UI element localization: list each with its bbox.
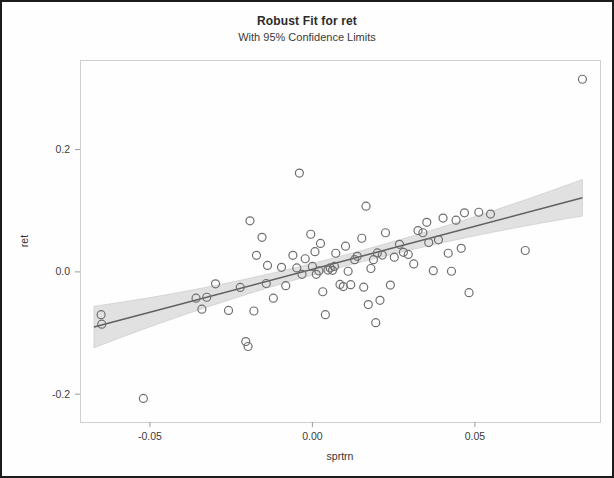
x-tick-label: 0.00	[302, 430, 323, 442]
chart-figure: Robust Fit for ret With 95% Confidence L…	[2, 2, 612, 476]
confidence-band	[94, 179, 582, 347]
y-tick-label: 0.2	[55, 143, 70, 155]
data-point	[423, 218, 431, 226]
data-point	[319, 288, 327, 296]
data-point	[250, 307, 258, 315]
plot-frame	[81, 61, 601, 423]
data-point	[342, 242, 350, 250]
data-point	[390, 253, 398, 261]
data-point	[360, 283, 368, 291]
data-point	[364, 301, 372, 309]
y-axis-label: ret	[18, 235, 30, 247]
data-point	[307, 230, 315, 238]
data-point	[386, 281, 394, 289]
data-point	[382, 229, 390, 237]
data-point	[258, 233, 266, 241]
data-point	[295, 169, 303, 177]
data-point	[332, 249, 340, 257]
data-point	[429, 267, 437, 275]
data-point	[301, 255, 309, 263]
x-axis-label: sprtrn	[327, 450, 354, 462]
data-point	[252, 251, 260, 259]
data-point	[372, 319, 380, 327]
scatter-plot: 0.20.0-0.2-0.050.000.05 sprtrnret	[2, 2, 612, 476]
data-point	[578, 75, 586, 83]
data-point	[447, 267, 455, 275]
x-tick-label: -0.05	[138, 430, 162, 442]
data-point	[289, 251, 297, 259]
data-point	[460, 209, 468, 217]
data-point	[414, 227, 422, 235]
data-point	[317, 239, 325, 247]
data-point	[246, 217, 254, 225]
data-point	[311, 248, 319, 256]
y-tick-label: 0.0	[55, 265, 70, 277]
data-point	[465, 289, 473, 297]
data-point	[362, 202, 370, 210]
data-point	[376, 296, 384, 304]
data-point	[225, 306, 233, 314]
data-point	[344, 267, 352, 275]
data-point	[439, 214, 447, 222]
screenshot-root: Robust Fit for ret With 95% Confidence L…	[0, 0, 614, 478]
axis-ticks: 0.20.0-0.2-0.050.000.05	[52, 143, 485, 442]
data-point	[457, 244, 465, 252]
y-tick-label: -0.2	[52, 388, 70, 400]
data-point	[264, 261, 272, 269]
data-point	[521, 246, 529, 254]
robust-fit-line	[94, 198, 582, 327]
data-point	[278, 263, 286, 271]
data-point	[244, 342, 252, 350]
data-point	[321, 311, 329, 319]
data-point	[242, 338, 250, 346]
data-point	[444, 249, 452, 257]
data-point	[404, 250, 412, 258]
data-point	[367, 265, 375, 273]
data-point	[410, 260, 418, 268]
x-tick-label: 0.05	[465, 430, 486, 442]
data-point	[347, 281, 355, 289]
data-points	[97, 75, 586, 402]
data-point	[358, 234, 366, 242]
data-point	[139, 394, 147, 402]
data-point	[269, 294, 277, 302]
